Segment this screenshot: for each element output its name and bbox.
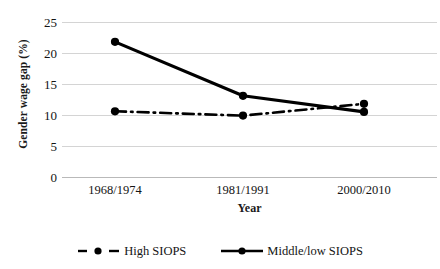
data-point <box>360 100 368 108</box>
x-tick-label: 1968/1974 <box>60 183 170 198</box>
x-axis-line <box>62 177 437 178</box>
y-tick-label: 25 <box>27 16 57 29</box>
data-point <box>239 92 247 100</box>
y-tick-label: 10 <box>27 109 57 122</box>
y-axis-tick-labels: 25 20 15 10 5 0 <box>24 0 57 269</box>
legend-label: High SIOPS <box>124 244 186 259</box>
data-point <box>239 112 247 120</box>
x-tick-label: 1981/1991 <box>188 183 298 198</box>
line-chart: Gender wage gap (%) 25 20 15 10 5 0 1968… <box>0 0 440 269</box>
legend-item-high-siops: High SIOPS <box>77 244 186 259</box>
y-tick-label: 5 <box>27 140 57 153</box>
data-point <box>360 108 368 116</box>
legend-label: Middle/low SIOPS <box>267 244 363 259</box>
dash-dot-marker-icon <box>77 245 121 257</box>
series-high-siops <box>111 100 368 120</box>
y-tick-label: 15 <box>27 78 57 91</box>
legend-item-middle-low-siops: Middle/low SIOPS <box>220 244 363 259</box>
plot-area <box>62 18 437 178</box>
x-axis-tick-labels: 1968/1974 1981/1991 2000/2010 <box>62 183 437 201</box>
y-tick-label: 20 <box>27 47 57 60</box>
data-point <box>111 107 119 115</box>
series-middle-low-siops <box>111 38 368 116</box>
y-tick-label: 0 <box>27 171 57 184</box>
chart-legend: High SIOPS Middle/low SIOPS <box>0 240 440 262</box>
solid-line-marker-icon <box>220 245 264 257</box>
x-axis-title: Year <box>62 201 437 216</box>
x-tick-label: 2000/2010 <box>309 183 419 198</box>
series-layer <box>62 18 437 178</box>
data-point <box>111 38 119 46</box>
